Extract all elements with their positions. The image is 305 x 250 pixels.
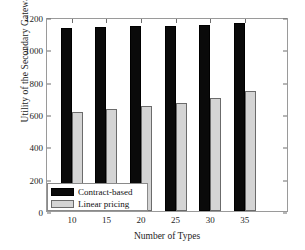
legend-swatch-contract-based (51, 188, 74, 196)
y-tick-mark (47, 213, 51, 214)
y-tick-mark (47, 19, 51, 20)
x-tick-mark (210, 19, 211, 23)
chart-figure: Utility of the Secondary Gateway 0200400… (0, 0, 305, 250)
x-axis-title: Number of Types (46, 231, 288, 241)
bar-linear-pricing-30 (210, 98, 221, 211)
y-tick-label: 400 (30, 143, 44, 153)
bar-linear-pricing-25 (176, 103, 187, 211)
y-tick-label: 800 (30, 79, 44, 89)
y-tick-label: 600 (30, 111, 44, 121)
chart-legend: Contract-based Linear pricing (47, 183, 148, 211)
legend-swatch-linear-pricing (51, 200, 74, 208)
y-tick-label: 1000 (25, 46, 43, 56)
x-tick-label: 15 (102, 215, 111, 225)
y-tick-mark (47, 148, 51, 149)
y-tick-label: 200 (30, 176, 44, 186)
y-tick-mark (47, 180, 51, 181)
y-tick-mark-right (283, 83, 287, 84)
x-tick-label: 25 (171, 215, 180, 225)
x-tick-mark (106, 19, 107, 23)
x-tick-mark (72, 19, 73, 23)
y-tick-mark (47, 116, 51, 117)
bar-linear-pricing-35 (245, 91, 256, 211)
legend-item-contract-based: Contract-based (51, 186, 144, 197)
legend-label-linear-pricing: Linear pricing (78, 199, 129, 209)
y-tick-mark-right (283, 180, 287, 181)
y-tick-mark-right (283, 116, 287, 117)
x-tick-label: 10 (67, 215, 76, 225)
bar-contract-based-35 (234, 23, 245, 211)
y-tick-mark-right (283, 19, 287, 20)
bar-contract-based-25 (165, 26, 176, 211)
y-tick-mark-right (283, 213, 287, 214)
y-tick-mark (47, 83, 51, 84)
y-tick-mark-right (283, 148, 287, 149)
x-tick-label: 20 (137, 215, 146, 225)
x-tick-label: 30 (206, 215, 215, 225)
legend-label-contract-based: Contract-based (78, 187, 132, 197)
x-tick-mark (176, 19, 177, 23)
x-tick-label: 35 (240, 215, 249, 225)
legend-item-linear-pricing: Linear pricing (51, 198, 144, 209)
x-tick-mark (141, 19, 142, 23)
bar-contract-based-30 (199, 25, 210, 211)
y-tick-label: 0 (39, 208, 44, 218)
y-tick-label: 1200 (25, 14, 43, 24)
x-tick-mark (245, 19, 246, 23)
y-tick-mark-right (283, 51, 287, 52)
y-tick-mark (47, 51, 51, 52)
